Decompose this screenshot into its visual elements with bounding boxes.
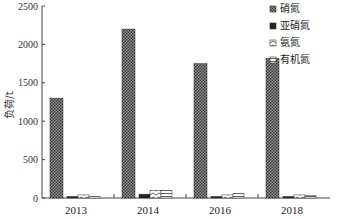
bar-2013-3: [89, 196, 100, 198]
x-tick-label: 2013: [65, 204, 88, 216]
x-tick-label: 2016: [209, 204, 232, 216]
bar-2016-0: [194, 64, 207, 198]
bar-2013-0: [50, 98, 63, 198]
y-tick-label: 2000: [18, 39, 38, 50]
y-tick-label: 0: [33, 193, 38, 204]
bar-2013-2: [78, 195, 89, 198]
legend-swatch: [270, 23, 276, 29]
y-tick-label: 2500: [18, 1, 38, 12]
legend-label: 亚硝氮: [280, 19, 310, 31]
legend-label: 氨氮: [280, 36, 300, 48]
legend-label: 有机氮: [280, 53, 310, 65]
bar-2018-2: [294, 195, 305, 198]
nitrogen-load-bar-chart: 05001000150020002500负荷/t2013201420162018…: [0, 0, 340, 220]
legend: 硝氮亚硝氮氨氮有机氮: [270, 2, 310, 65]
bar-2016-1: [211, 196, 222, 198]
bar-2018-1: [283, 196, 294, 198]
bar-2014-1: [139, 194, 150, 198]
legend-swatch: [270, 40, 276, 46]
legend-label: 硝氮: [280, 2, 300, 14]
bar-2016-2: [222, 195, 233, 198]
bar-2016-3: [233, 193, 244, 198]
bar-2013-1: [67, 196, 78, 198]
bar-2018-0: [266, 58, 279, 198]
y-tick-label: 1000: [18, 116, 38, 127]
y-tick-label: 500: [23, 154, 38, 165]
bar-2014-3: [161, 190, 172, 198]
legend-swatch: [270, 57, 276, 63]
legend-swatch: [270, 6, 276, 12]
y-axis-label: 负荷/t: [3, 91, 15, 118]
bars: [50, 29, 316, 198]
bar-2018-3: [305, 196, 316, 198]
bar-2014-0: [122, 29, 135, 198]
y-tick-label: 1500: [18, 77, 38, 88]
x-tick-label: 2018: [281, 204, 304, 216]
bar-2014-2: [150, 190, 161, 198]
x-tick-label: 2014: [137, 204, 160, 216]
